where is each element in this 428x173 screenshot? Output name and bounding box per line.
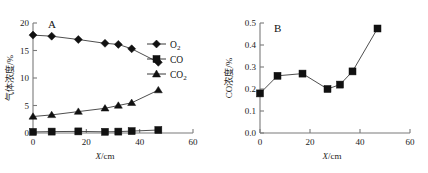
markers-b-co	[257, 25, 382, 97]
y-tick-label-b-03: 0.3	[245, 62, 257, 72]
panel-a-plot: 0 20 40 60 0 5 10 15 20 X/cm 气体浓度/% A	[0, 0, 214, 173]
markers-o2	[29, 31, 162, 66]
x-tick-label-a-20: 20	[82, 137, 92, 147]
panel-b-plot: 0 20 40 60 0.0 0.1 0.2 0.3 0.4 0.5 X/cm …	[214, 0, 428, 173]
y-tick-label-b-00: 0.0	[245, 128, 257, 138]
y-tick-label-b-01: 0.1	[245, 106, 256, 116]
y-tick-label-a-15: 15	[20, 46, 30, 56]
y-tick-label-b-04: 0.4	[245, 40, 257, 50]
x-tick-label-a-0: 0	[31, 137, 36, 147]
series-line-b-co	[260, 29, 378, 94]
y-tick-label-a-20: 20	[20, 18, 30, 28]
x-axis-title-b: X/cm	[322, 151, 342, 161]
x-axis-title-a: X/cm	[95, 151, 115, 161]
x-tick-label-a-60: 60	[189, 137, 199, 147]
legend-label-co: CO	[170, 55, 183, 65]
y-axis-title-b: CO浓度/%	[223, 57, 234, 98]
panel-label-a: A	[48, 18, 56, 30]
x-tick-label-b-0: 0	[258, 137, 263, 147]
x-tick-label-b-20: 20	[306, 137, 316, 147]
legend-marker-co-square-icon	[153, 56, 160, 63]
y-tick-label-a-0: 0	[25, 128, 30, 138]
y-axis-title-a: 气体浓度/%	[4, 54, 15, 101]
figure-container: 0 20 40 60 0 5 10 15 20 X/cm 气体浓度/% A	[0, 0, 428, 173]
panel-b: 0 20 40 60 0.0 0.1 0.2 0.3 0.4 0.5 X/cm …	[214, 0, 428, 173]
panel-a: 0 20 40 60 0 5 10 15 20 X/cm 气体浓度/% A	[0, 0, 214, 173]
y-tick-label-a-10: 10	[20, 73, 30, 83]
legend-a: O2 CO CO2	[147, 40, 187, 82]
legend-marker-co2-triangle-icon	[153, 70, 161, 77]
legend-marker-o2-diamond-icon	[153, 40, 161, 48]
x-tick-label-a-40: 40	[135, 137, 145, 147]
x-tick-label-b-60: 60	[406, 137, 416, 147]
markers-co2	[29, 86, 162, 119]
y-tick-label-a-5: 5	[25, 101, 30, 111]
y-tick-label-b-02: 0.2	[245, 84, 256, 94]
legend-label-co2: CO2	[170, 70, 187, 82]
y-tick-label-b-05: 0.5	[245, 18, 257, 28]
legend-label-o2: O2	[170, 40, 181, 52]
x-tick-label-b-40: 40	[356, 137, 366, 147]
panel-label-b: B	[274, 22, 281, 34]
